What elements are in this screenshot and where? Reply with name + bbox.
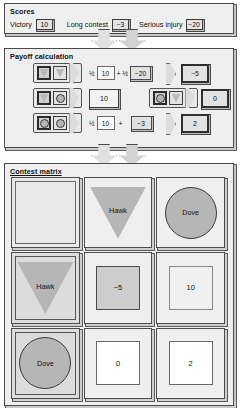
score-label-long-contest: Long contest xyxy=(67,20,108,29)
coefficient: ½ xyxy=(89,70,95,77)
term-value: −3 xyxy=(131,116,152,130)
circle-icon xyxy=(153,91,167,105)
matchup-hawk-hawk xyxy=(33,63,82,83)
score-label-victory: Victory xyxy=(10,20,32,29)
matrix-value: 10 xyxy=(169,266,213,310)
term-value: −20 xyxy=(130,66,151,80)
score-value-long-contest: −3 xyxy=(112,19,129,30)
chevron-right-icon xyxy=(185,88,195,108)
matrix-value: −5 xyxy=(96,266,140,310)
payoff-result-hawk-hawk: −5 xyxy=(181,64,209,83)
triangle-icon xyxy=(53,66,67,80)
matrix-col-header-dove: Dove xyxy=(156,177,225,248)
matrix-row-header-dove: Dove xyxy=(11,328,80,399)
payoff-row-hawk-hawk: ½ 10 + ½ −20 −5 xyxy=(5,63,233,83)
diagram-canvas: Scores Victory 10 Long contest −3 Seriou… xyxy=(0,0,242,408)
contest-matrix-title: Contest matrix xyxy=(10,167,62,176)
circle-icon xyxy=(37,116,51,130)
matrix-cell-dove-hawk: 0 xyxy=(84,328,153,399)
matrix-col-header-hawk-label: Hawk xyxy=(90,206,146,215)
chevron-right-icon xyxy=(69,63,79,83)
triangle-icon xyxy=(37,91,51,105)
triangle-icon xyxy=(37,66,51,80)
payoff-result-dove-dove: 2 xyxy=(181,114,209,133)
contest-matrix-grid: Hawk Dove Hawk −5 10 xyxy=(11,177,225,399)
term-value: 10 xyxy=(97,116,115,130)
circle-icon: Dove xyxy=(165,187,217,239)
matrix-col-header-hawk: Hawk xyxy=(84,177,153,248)
triangle-icon: Hawk xyxy=(17,262,73,314)
payoff-result-dove-hawk: 0 xyxy=(201,89,229,108)
chevron-right-icon xyxy=(166,63,176,85)
payoff-result-hawk-dove: 10 xyxy=(89,89,119,108)
matrix-value: 2 xyxy=(169,341,213,385)
matchup-dove-dove xyxy=(33,113,82,133)
score-value-victory: 10 xyxy=(36,19,53,30)
scores-title: Scores xyxy=(10,7,35,16)
chevron-right-icon xyxy=(166,113,176,135)
operator: + xyxy=(119,120,123,127)
coefficient: ½ xyxy=(123,70,129,77)
triangle-icon: Hawk xyxy=(90,187,146,239)
score-value-serious-injury: −20 xyxy=(186,19,203,30)
triangle-icon xyxy=(169,91,183,105)
matrix-cell-hawk-dove: 10 xyxy=(156,252,225,323)
matrix-col-header-dove-label: Dove xyxy=(182,208,199,217)
matrix-row-header-hawk: Hawk xyxy=(11,252,80,323)
circle-icon xyxy=(53,91,67,105)
matrix-row-header-dove-label: Dove xyxy=(37,359,54,368)
payoff-title: Payoff calculation xyxy=(10,52,73,61)
matrix-row-header-hawk-label: Hawk xyxy=(17,282,73,291)
chevron-right-icon xyxy=(69,88,79,108)
operator: + xyxy=(117,70,121,77)
matchup-dove-hawk xyxy=(149,88,198,108)
matchup-hawk-dove xyxy=(33,88,82,108)
payoff-row-dove-dove: ½ 10 + −3 2 xyxy=(5,113,233,133)
matrix-cell-dove-dove: 2 xyxy=(156,328,225,399)
matrix-value: 0 xyxy=(96,341,140,385)
contest-matrix-panel: Contest matrix Hawk Dove Hawk xyxy=(4,163,234,406)
matrix-corner-cell xyxy=(11,177,80,248)
payoff-panel: Payoff calculation ½ 10 + ½ −20 −5 xyxy=(4,48,234,148)
term-value: 10 xyxy=(97,66,115,80)
matrix-cell-hawk-hawk: −5 xyxy=(84,252,153,323)
circle-icon xyxy=(53,116,67,130)
circle-icon: Dove xyxy=(19,337,71,389)
chevron-right-icon xyxy=(69,113,79,133)
payoff-row-mixed: 10 0 xyxy=(5,88,233,108)
coefficient: ½ xyxy=(89,120,95,127)
score-label-serious-injury: Serious injury xyxy=(139,20,183,29)
